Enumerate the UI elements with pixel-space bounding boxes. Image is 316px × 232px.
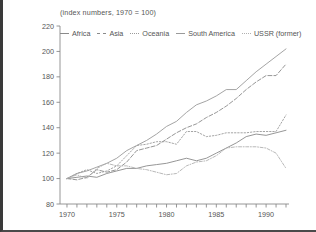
series-line-asia: [67, 64, 286, 180]
x-axis-tick-label: 1990: [258, 210, 274, 219]
x-axis-tick-label: 1970: [59, 210, 75, 219]
series-line-africa: [67, 130, 286, 178]
chart-plot-area: 8010012014016018020022019701975198019851…: [3, 0, 316, 232]
chart-figure: (index numbers, 1970 = 100) Africa Asia …: [0, 0, 316, 232]
y-axis-tick-label: 160: [42, 98, 54, 107]
x-axis-tick-label: 1975: [109, 210, 125, 219]
y-axis-tick-label: 180: [42, 72, 54, 81]
y-axis-tick-label: 200: [42, 47, 54, 56]
y-axis-tick-label: 80: [46, 200, 54, 209]
y-axis-tick-label: 220: [42, 22, 54, 31]
y-axis-tick-label: 120: [42, 149, 54, 158]
series-line-south-america: [67, 49, 286, 179]
x-axis-tick-label: 1980: [159, 210, 175, 219]
series-line-ussr-former: [67, 147, 286, 179]
y-axis-tick-label: 140: [42, 123, 54, 132]
axes-group: 8010012014016018020022019701975198019851…: [42, 22, 289, 219]
series-group: [67, 49, 286, 180]
x-axis-tick-label: 1985: [208, 210, 224, 219]
y-axis-tick-label: 100: [42, 174, 54, 183]
